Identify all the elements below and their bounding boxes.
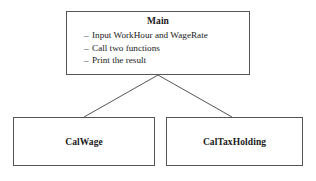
bullet-item-text: Print the result <box>92 55 146 65</box>
bullet-item-text: Input WorkHour and WageRate <box>92 30 208 40</box>
connector-main-to-calwage <box>84 75 158 117</box>
node-main-bullet-list: –Input WorkHour and WageRate –Call two f… <box>67 29 249 67</box>
node-main-title: Main <box>67 15 249 27</box>
node-calwage: CalWage <box>13 117 155 166</box>
bullet-item-text: Call two functions <box>92 43 160 53</box>
bullet-dash-icon: – <box>84 29 92 42</box>
node-calwage-title: CalWage <box>14 136 154 148</box>
connector-main-to-caltaxholding <box>158 75 232 117</box>
diagram-canvas: Main –Input WorkHour and WageRate –Call … <box>0 0 316 181</box>
bullet-dash-icon: – <box>84 42 92 55</box>
node-caltaxholding-title: CalTaxHolding <box>167 136 302 148</box>
bullet-item: –Call two functions <box>84 42 249 55</box>
bullet-item: –Input WorkHour and WageRate <box>84 29 249 42</box>
bullet-item: –Print the result <box>84 54 249 67</box>
bullet-dash-icon: – <box>84 54 92 67</box>
node-caltaxholding: CalTaxHolding <box>166 117 303 166</box>
node-main: Main –Input WorkHour and WageRate –Call … <box>66 11 250 75</box>
